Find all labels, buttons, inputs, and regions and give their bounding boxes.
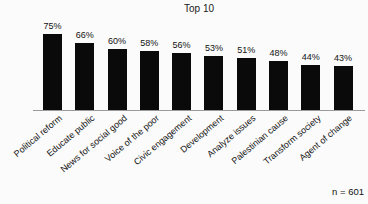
bar: [204, 56, 223, 110]
bar-value-label: 53%: [198, 43, 230, 53]
x-axis-line: [33, 110, 365, 111]
bar-value-label: 44%: [295, 52, 327, 62]
bar: [301, 65, 320, 110]
bar: [237, 58, 256, 110]
bar-value-label: 48%: [262, 48, 294, 58]
bar-value-label: 66%: [69, 30, 101, 40]
bar-chart: Top 10 75%Political reform66%Educate pub…: [0, 0, 368, 204]
bar: [43, 34, 62, 110]
bar-value-label: 75%: [37, 21, 69, 31]
bar-value-label: 58%: [133, 38, 165, 48]
bar: [108, 49, 127, 110]
bar-category-label: Civic engagement: [131, 113, 193, 167]
bar: [75, 43, 94, 110]
bar: [269, 61, 288, 110]
bar-value-label: 51%: [230, 45, 262, 55]
sample-size-note: n = 601: [332, 186, 364, 197]
bar-value-label: 56%: [166, 40, 198, 50]
bar: [172, 53, 191, 110]
bar-category-label: Transform society: [261, 113, 322, 166]
bar-value-label: 60%: [101, 36, 133, 46]
bar-category-label: Palestinian cause: [229, 113, 289, 166]
bar-value-label: 43%: [327, 53, 359, 63]
plot-area: 75%Political reform66%Educate public60%N…: [0, 0, 368, 204]
bar: [140, 51, 159, 110]
bar: [334, 66, 353, 110]
